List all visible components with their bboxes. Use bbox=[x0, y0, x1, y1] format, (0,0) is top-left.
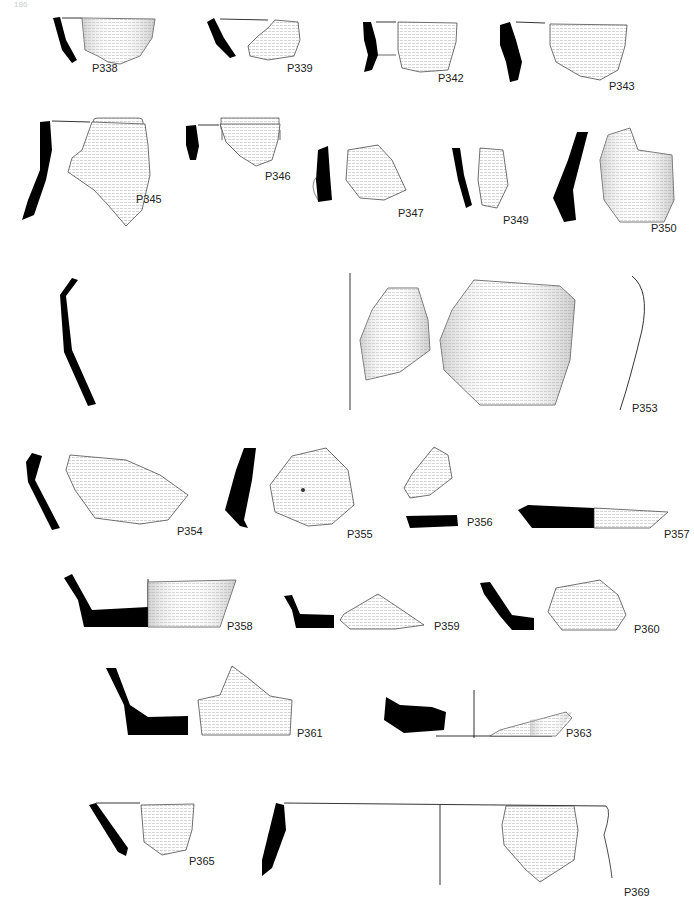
sherd-P338 bbox=[53, 17, 155, 64]
figure-label-P365: P365 bbox=[189, 855, 215, 867]
figure-label-P345: P345 bbox=[136, 193, 162, 205]
sherd-P342 bbox=[363, 22, 457, 72]
figure-label-P360: P360 bbox=[634, 623, 660, 635]
figure-label-P355: P355 bbox=[347, 528, 373, 540]
figure-label-P359: P359 bbox=[434, 620, 460, 632]
figure-label-P342: P342 bbox=[438, 72, 464, 84]
sherd-P358 bbox=[64, 574, 236, 627]
sherd-P343 bbox=[500, 22, 627, 82]
figure-label-P350: P350 bbox=[651, 222, 677, 234]
sherd-P346 bbox=[186, 118, 280, 166]
figure-label-P349: P349 bbox=[503, 214, 529, 226]
sherd-P349 bbox=[452, 148, 508, 208]
figure-label-P363: P363 bbox=[566, 727, 592, 739]
sherd-P347 bbox=[313, 145, 406, 202]
figure-label-P353: P353 bbox=[632, 402, 658, 414]
figure-label-P343: P343 bbox=[609, 80, 635, 92]
sherd-P345 bbox=[22, 118, 150, 226]
figure-label-P356: P356 bbox=[467, 516, 493, 528]
sherd-P353 bbox=[60, 273, 644, 410]
figure-label-P358: P358 bbox=[227, 620, 253, 632]
sherd-P354 bbox=[26, 453, 188, 530]
sherd-P350 bbox=[553, 128, 674, 222]
sherd-P339 bbox=[207, 18, 300, 60]
figure-label-P346: P346 bbox=[265, 170, 291, 182]
figure-label-P339: P339 bbox=[287, 62, 313, 74]
sherd-P360 bbox=[480, 580, 626, 630]
sherd-P365 bbox=[89, 803, 194, 856]
figure-label-P354: P354 bbox=[177, 525, 203, 537]
sherd-P361 bbox=[106, 666, 292, 735]
sherd-P369 bbox=[262, 803, 612, 885]
sherd-P355 bbox=[225, 448, 354, 528]
sherd-P359 bbox=[284, 594, 424, 629]
figure-label-P338: P338 bbox=[92, 62, 118, 74]
figure-label-P369: P369 bbox=[624, 886, 650, 898]
figure-label-P361: P361 bbox=[297, 727, 323, 739]
figure-label-P357: P357 bbox=[664, 528, 690, 540]
pottery-drawings bbox=[0, 0, 694, 898]
sherd-P357 bbox=[518, 505, 668, 528]
sherd-P356 bbox=[404, 447, 458, 528]
sherd-P363 bbox=[384, 690, 572, 738]
figure-label-P347: P347 bbox=[398, 207, 424, 219]
